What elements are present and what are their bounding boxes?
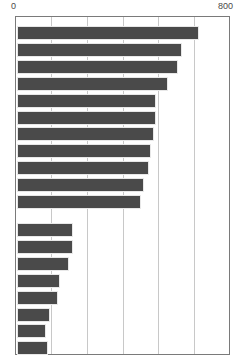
bar: [17, 77, 168, 91]
x-axis-tick-labels: 0 800: [0, 0, 238, 16]
bar: [17, 257, 69, 271]
bar: [17, 111, 156, 125]
x-axis-tick-label-min: 0: [11, 1, 16, 12]
x-axis-tick-label-max: 800: [218, 1, 233, 12]
bars-layer: [16, 17, 229, 354]
bar: [17, 291, 58, 305]
bar: [17, 94, 156, 108]
bar: [17, 43, 182, 57]
bar: [17, 60, 178, 74]
plot-area-frame: [15, 16, 230, 355]
bar: [17, 324, 46, 338]
bar-chart: 0 800: [0, 0, 238, 363]
bar: [17, 178, 144, 192]
plot-inner: [16, 17, 229, 354]
bar: [17, 144, 151, 158]
bar: [17, 26, 199, 40]
bar: [17, 240, 73, 254]
bar: [17, 127, 154, 141]
bar: [17, 161, 149, 175]
bar: [17, 195, 141, 209]
bar: [17, 274, 60, 288]
bar: [17, 223, 73, 237]
bar: [17, 308, 50, 322]
bar: [17, 341, 48, 355]
